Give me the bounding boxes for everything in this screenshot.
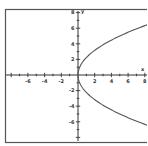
y-tick-label: 6 xyxy=(71,25,75,31)
y-tick-label: -4 xyxy=(69,103,75,109)
y-tick-label: 8 xyxy=(71,9,75,15)
y-tick-label: -6 xyxy=(69,119,75,125)
x-tick-label: -2 xyxy=(59,78,65,84)
y-tick-label: 2 xyxy=(71,56,75,62)
x-tick-label: 2 xyxy=(93,78,97,84)
parabola-plot: -6-4-224688642-2-4-6 x y xyxy=(0,0,147,146)
plot-frame xyxy=(6,10,148,143)
x-tick-label: -4 xyxy=(42,78,48,84)
x-tick-label: -6 xyxy=(25,78,31,84)
x-tick-label: 6 xyxy=(126,78,130,84)
x-tick-label: 4 xyxy=(110,78,114,84)
x-tick-label: 8 xyxy=(143,78,147,84)
y-tick-label: 4 xyxy=(71,41,75,47)
y-tick-label: -2 xyxy=(69,87,75,93)
